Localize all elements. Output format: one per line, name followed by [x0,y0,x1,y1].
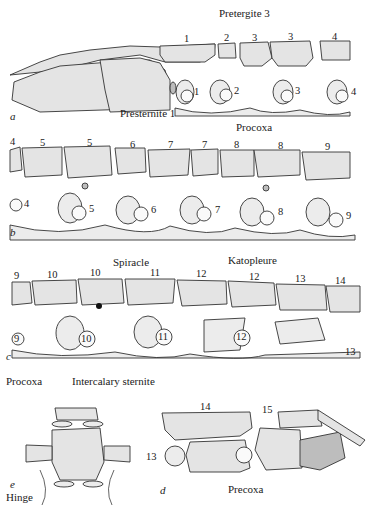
panel-e-drawing [26,408,130,505]
leg-number: 9 [14,334,19,344]
tergite-number: 14 [335,276,346,286]
tergite-number: 12 [249,272,260,282]
panel-label-d: d [160,484,166,496]
panel-label-b: b [10,226,16,238]
panel-label-e: e [10,478,15,490]
leg-number: 7 [215,205,220,215]
tergite-number: 10 [90,268,101,278]
tergite-number: 3 [288,32,293,42]
leg-number: 10 [81,334,92,344]
tergite-number: 2 [224,33,229,43]
tergite-number: 5 [87,138,92,148]
panel-b-drawing [10,146,355,240]
leg-number: 11 [158,332,168,342]
leg-number: 5 [89,204,94,214]
tergite-number: 4 [10,137,15,147]
tergite-number: 9 [14,271,19,281]
tergite-number: 8 [234,140,239,150]
panel-label-a: a [10,110,16,122]
figure-drawing [0,0,374,506]
tergite-number: 13 [295,274,306,284]
label-katopleure: Katopleure [228,255,277,266]
leg-number: 2 [234,86,239,96]
leg-number: 1 [194,87,199,97]
tergite-number: 7 [202,140,207,150]
panel-a-drawing [10,41,350,116]
tergite-number: 4 [332,32,337,42]
label-pretergite-3: Pretergite 3 [219,8,270,19]
tergite-number: 9 [325,142,330,152]
leg-number: 4 [24,199,29,209]
leg-number: 13 [146,452,157,462]
tergite-number: 3 [252,33,257,43]
leg-number: 6 [151,205,156,215]
leg-number: 8 [278,207,283,217]
tergite-number: 10 [47,270,58,280]
label-procoxa: Procoxa [236,122,272,133]
label-intercalary-sternite: Intercalary sternite [72,376,155,387]
label-hinge: Hinge [6,492,33,503]
leg-number: 9 [346,211,351,221]
leg-number: 4 [351,87,356,97]
tergite-number: 15 [262,405,273,415]
label-precoxa: Precoxa [228,484,263,495]
panel-c-drawing [12,279,360,358]
label-presternite-1: Presternite 1 [120,108,175,119]
tergite-number: 6 [130,140,135,150]
label-spiracle: Spiracle [113,257,149,268]
tergite-number: 14 [200,402,211,412]
tergite-number: 1 [184,34,189,44]
tergite-number: 11 [150,268,160,278]
panel-label-c: c [6,350,11,362]
tergite-number: 7 [168,140,173,150]
tergite-number: 5 [40,138,45,148]
tergite-number: 12 [196,269,207,279]
panel-d-drawing [162,410,365,472]
label-procoxa: Procoxa [6,376,42,387]
leg-number: 12 [236,332,247,342]
leg-number: 13 [345,347,356,357]
leg-number: 3 [295,86,300,96]
tergite-number: 8 [278,141,283,151]
